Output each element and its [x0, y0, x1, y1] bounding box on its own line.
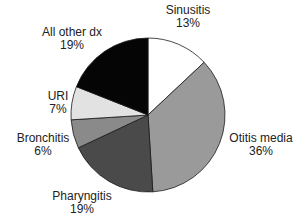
slice-label-percent: 13% — [166, 17, 211, 30]
slice-label-percent: 19% — [52, 203, 111, 216]
slice-label-percent: 7% — [48, 103, 69, 116]
slice-label: All other dx19% — [42, 26, 102, 52]
slice-label: Sinusitis13% — [166, 4, 211, 30]
slice-label-percent: 19% — [42, 39, 102, 52]
slice-label: URI7% — [48, 90, 69, 116]
slice-label: Otitis media36% — [229, 132, 292, 158]
slice-label-percent: 36% — [229, 145, 292, 158]
slice-label: Bronchitis6% — [17, 132, 70, 158]
slice-label-percent: 6% — [17, 145, 70, 158]
slice-label: Pharyngitis19% — [52, 190, 111, 216]
